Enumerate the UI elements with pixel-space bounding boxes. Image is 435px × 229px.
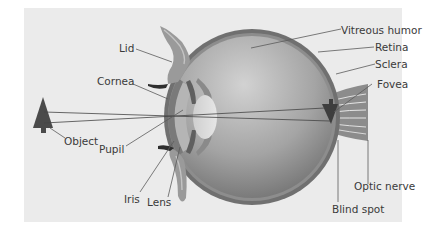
label-blind-spot: Blind spot [332, 203, 384, 215]
label-lid: Lid [119, 42, 134, 54]
label-fovea: Fovea [377, 78, 408, 90]
label-cornea: Cornea [97, 75, 134, 87]
label-lens: Lens [147, 196, 171, 208]
label-iris: Iris [124, 193, 140, 205]
label-vitreous-humor: Vitreous humor [341, 24, 422, 36]
label-optic-nerve: Optic nerve [354, 180, 415, 192]
label-retina: Retina [375, 41, 408, 53]
label-pupil: Pupil [99, 143, 124, 155]
eye-anatomy-diagram: Lid Cornea Object Pupil Iris Lens Vitreo… [0, 0, 435, 229]
label-sclera: Sclera [375, 58, 408, 70]
label-object: Object [64, 135, 98, 147]
